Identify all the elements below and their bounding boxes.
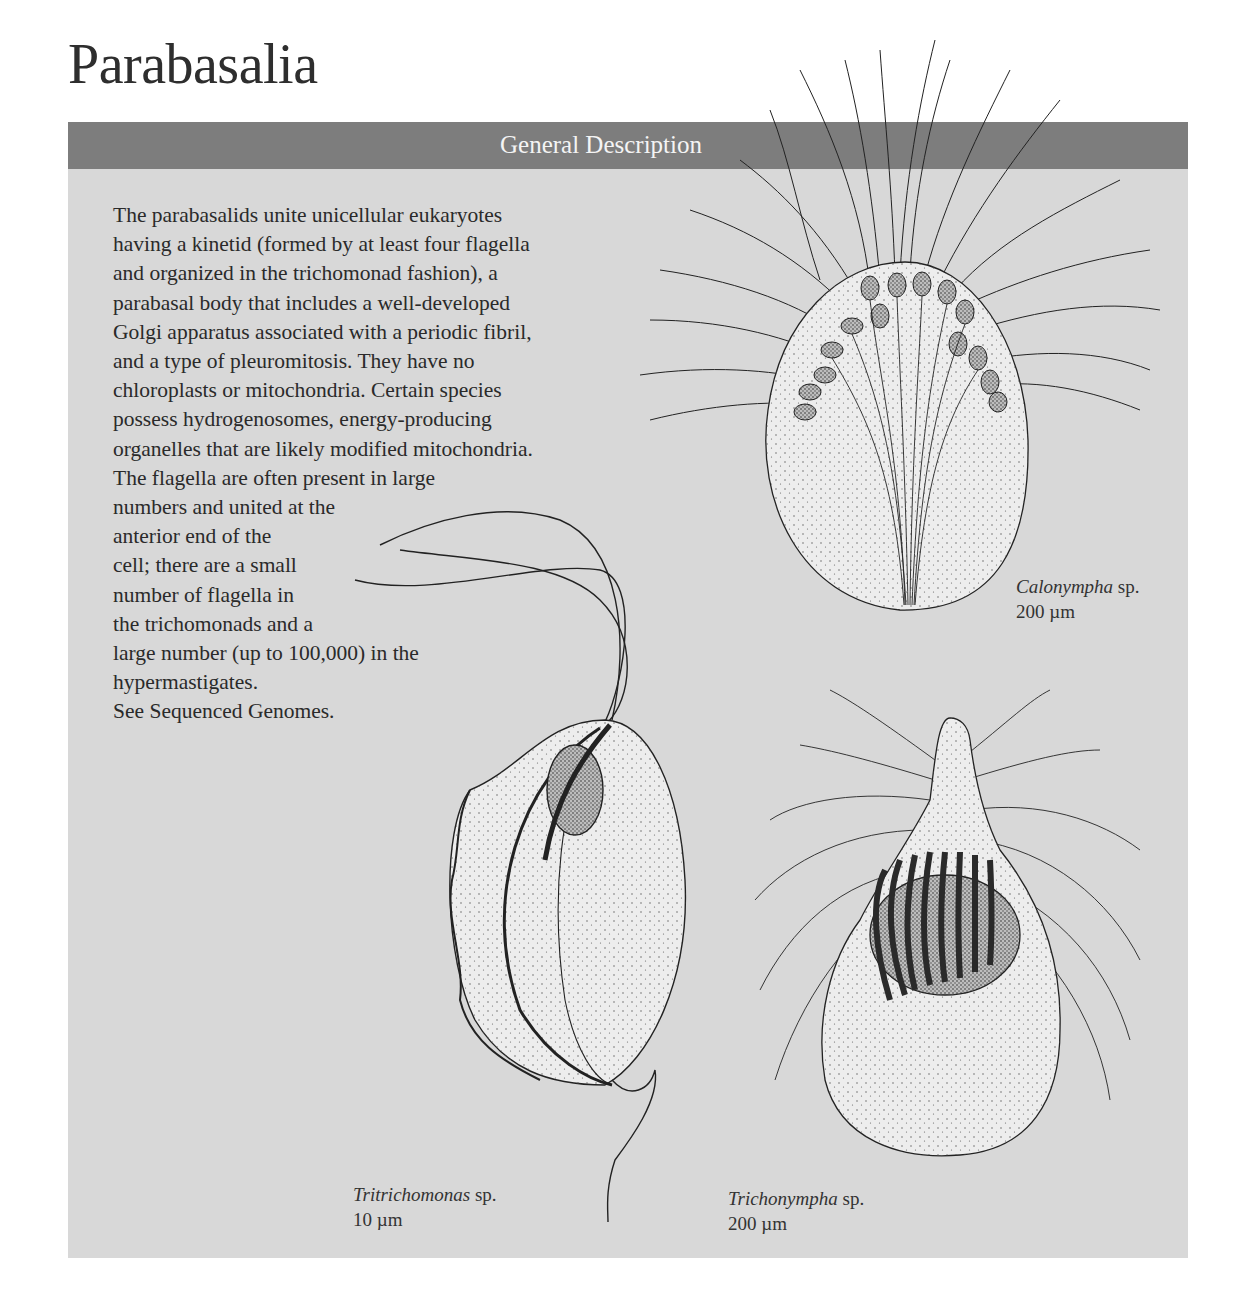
calonympha-illustration <box>640 40 1160 610</box>
illustrations <box>0 0 1241 1314</box>
trichonympha-illustration <box>755 690 1140 1156</box>
tritrichomonas-illustration <box>355 512 685 1222</box>
